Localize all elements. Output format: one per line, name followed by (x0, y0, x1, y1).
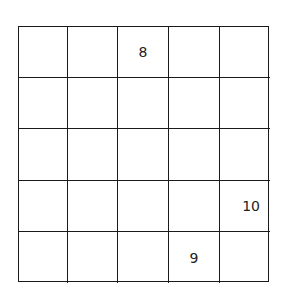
grid-cell-r4-c4[interactable] (220, 232, 270, 283)
grid-cell-r3-c4[interactable]: 10 (220, 181, 270, 232)
grid-cell-r1-c3[interactable] (169, 78, 220, 129)
grid-cell-r2-c4[interactable] (220, 129, 270, 181)
grid-cell-r0-c2[interactable]: 8 (118, 27, 169, 78)
grid-cell-r4-c0[interactable] (19, 232, 68, 283)
grid-cell-r1-c4[interactable] (220, 78, 270, 129)
puzzle-grid: 8 10 9 (18, 26, 269, 282)
grid-cell-r4-c2[interactable] (118, 232, 169, 283)
grid-cell-r3-c3[interactable] (169, 181, 220, 232)
grid-cell-r2-c0[interactable] (19, 129, 68, 181)
grid-cell-r0-c0[interactable] (19, 27, 68, 78)
grid-cell-r4-c1[interactable] (68, 232, 118, 283)
grid-cell-r2-c3[interactable] (169, 129, 220, 181)
grid-cell-r4-c3[interactable]: 9 (169, 232, 220, 283)
grid-cell-r2-c1[interactable] (68, 129, 118, 181)
grid-cell-r1-c0[interactable] (19, 78, 68, 129)
grid-cell-r3-c1[interactable] (68, 181, 118, 232)
grid-cell-r3-c2[interactable] (118, 181, 169, 232)
grid-cell-r1-c1[interactable] (68, 78, 118, 129)
grid-cell-r1-c2[interactable] (118, 78, 169, 129)
grid-cell-r3-c0[interactable] (19, 181, 68, 232)
grid-cell-r2-c2[interactable] (118, 129, 169, 181)
grid-cell-r0-c4[interactable] (220, 27, 270, 78)
grid-cell-r0-c3[interactable] (169, 27, 220, 78)
grid-cell-r0-c1[interactable] (68, 27, 118, 78)
